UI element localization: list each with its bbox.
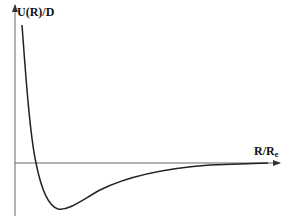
x-axis-label: R/Re [254, 144, 278, 159]
x-axis-label-subscript: e [275, 150, 279, 159]
potential-energy-chart: U(R)/D R/Re [0, 0, 292, 222]
chart-plot-area [0, 0, 292, 222]
x-axis-label-main: R/R [254, 144, 275, 158]
potential-curve [22, 25, 268, 209]
y-axis-label: U(R)/D [17, 5, 54, 20]
